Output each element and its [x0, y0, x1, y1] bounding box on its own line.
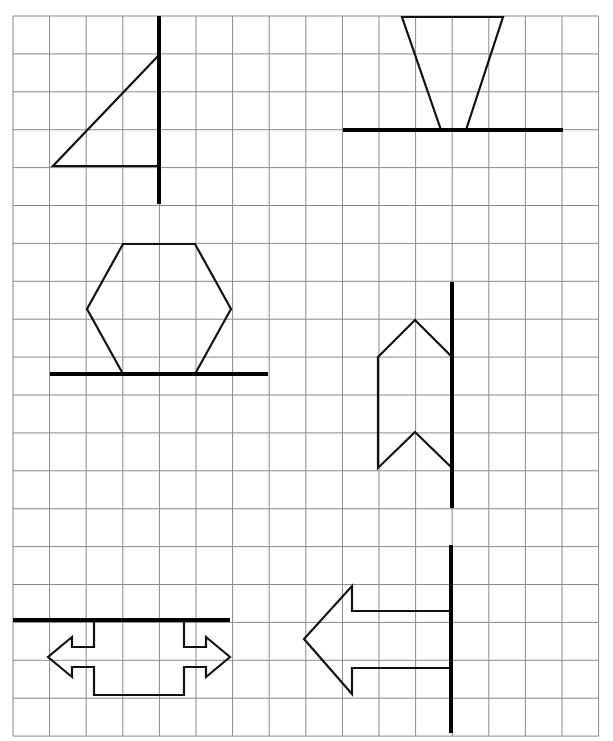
figure-triangle	[53, 16, 159, 204]
figure-double-arrow	[13, 620, 230, 695]
triangle-shape	[53, 55, 159, 166]
figure-trapezoid	[343, 17, 563, 130]
chevron-shape	[378, 320, 452, 468]
figure-left-arrow	[304, 545, 451, 733]
double-arrow-shape	[48, 620, 230, 695]
figures-layer	[13, 16, 563, 733]
square-grid	[13, 16, 599, 736]
left-arrow-shape	[304, 586, 451, 694]
symmetry-worksheet	[0, 0, 613, 741]
